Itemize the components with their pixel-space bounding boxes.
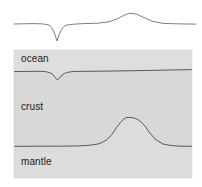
crust-layer-label: crust: [21, 102, 43, 112]
gravity-anomaly-profile-curve: [14, 13, 196, 41]
ocean-layer-label: ocean: [21, 54, 49, 64]
mantle-layer-label: mantle: [21, 157, 52, 167]
gravity-anomaly-crustal-cross-section-figure: ocean crust mantle: [0, 0, 202, 187]
